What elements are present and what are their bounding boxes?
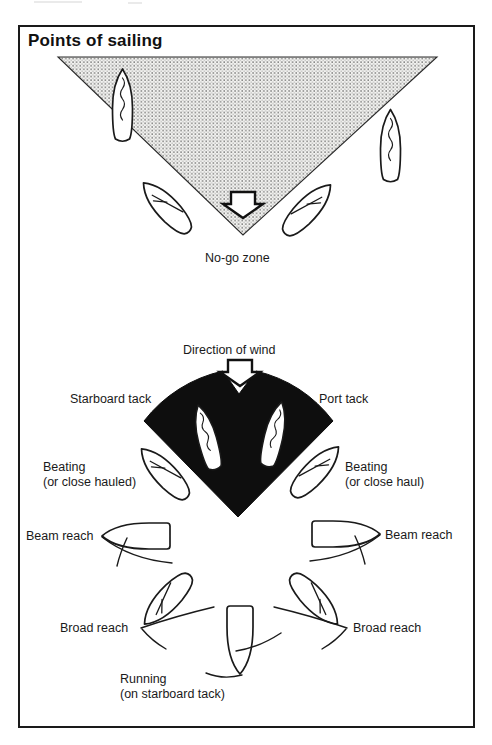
running-label: Running (on starboard tack) bbox=[120, 672, 225, 702]
beating-right-line1: Beating bbox=[345, 460, 424, 475]
broad-reach-right-label: Broad reach bbox=[353, 621, 421, 636]
beating-left-line2: (or close hauled) bbox=[43, 475, 136, 490]
running-boat-icon bbox=[227, 606, 253, 674]
boat-luffing-right-icon bbox=[381, 110, 401, 182]
beam-reach-boat-right-icon bbox=[312, 521, 380, 547]
beam-reach-left-label: Beam reach bbox=[26, 529, 93, 544]
broad-right-sheet-line bbox=[322, 629, 346, 649]
direction-of-wind-label: Direction of wind bbox=[183, 343, 275, 358]
port-tack-label: Port tack bbox=[319, 392, 368, 407]
running-line1: Running bbox=[120, 672, 225, 687]
broad-reach-boat-left-icon bbox=[136, 568, 198, 632]
beating-right-line2: (or close haul) bbox=[345, 475, 424, 490]
page: Points of sailing bbox=[0, 0, 492, 745]
boat-bearing-away-left-icon bbox=[135, 175, 197, 239]
starboard-tack-label: Starboard tack bbox=[70, 392, 151, 407]
broad-left-sheet-line bbox=[142, 629, 166, 649]
beating-right-label: Beating (or close haul) bbox=[345, 460, 424, 490]
running-line2: (on starboard tack) bbox=[120, 687, 225, 702]
beating-left-label: Beating (or close hauled) bbox=[43, 460, 136, 490]
no-go-zone-label: No-go zone bbox=[205, 251, 270, 266]
beam-reach-boat-left-icon bbox=[102, 523, 170, 549]
beating-left-line1: Beating bbox=[43, 460, 136, 475]
broad-reach-boat-right-icon bbox=[284, 568, 346, 632]
broad-reach-left-label: Broad reach bbox=[60, 621, 128, 636]
beam-reach-right-label: Beam reach bbox=[385, 528, 452, 543]
